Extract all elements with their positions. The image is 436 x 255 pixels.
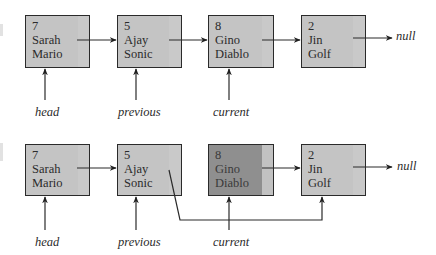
node-data: 5 Ajay Sonic	[118, 16, 170, 67]
node-next-field	[353, 16, 365, 67]
node-id: 7	[32, 148, 78, 162]
node-next-field	[78, 145, 89, 195]
pointer-label-current: current	[213, 235, 249, 250]
node-id: 8	[215, 148, 262, 162]
node-last-name: Diablo	[215, 176, 262, 190]
node-first-name: Jin	[308, 162, 353, 176]
list-node: 7 Sarah Mario	[25, 15, 90, 68]
pointer-label-current: current	[213, 105, 249, 120]
node-last-name: Golf	[308, 47, 353, 61]
node-data: 5 Ajay Sonic	[118, 145, 170, 195]
node-first-name: Sarah	[32, 33, 78, 47]
node-last-name: Sonic	[124, 47, 169, 61]
node-next-field	[169, 16, 181, 67]
node-data: 8 Gino Diablo	[209, 16, 263, 67]
node-first-name: Ajay	[124, 162, 169, 176]
node-first-name: Gino	[215, 162, 262, 176]
node-data: 7 Sarah Mario	[26, 145, 79, 195]
node-last-name: Sonic	[124, 176, 169, 190]
node-next-field	[353, 145, 365, 195]
null-label: null	[397, 159, 416, 174]
list-node: 5 Ajay Sonic	[117, 144, 182, 196]
node-last-name: Golf	[308, 176, 353, 190]
pointer-label-head: head	[35, 105, 59, 120]
node-id: 7	[32, 19, 78, 33]
edge-mark	[0, 24, 3, 36]
node-next-field	[262, 16, 273, 67]
node-data: 8 Gino Diablo	[209, 145, 263, 195]
edge-mark	[0, 143, 3, 161]
node-id: 2	[308, 148, 353, 162]
list-node: 8 Gino Diablo	[208, 15, 274, 68]
node-next-field	[262, 145, 273, 195]
node-first-name: Gino	[215, 33, 262, 47]
node-id: 5	[124, 148, 169, 162]
node-last-name: Mario	[32, 47, 78, 61]
node-id: 8	[215, 19, 262, 33]
node-first-name: Jin	[308, 33, 353, 47]
node-next-field	[169, 145, 181, 195]
node-next-field	[78, 16, 89, 67]
node-last-name: Mario	[32, 176, 78, 190]
node-data: 2 Jin Golf	[302, 16, 354, 67]
node-data: 7 Sarah Mario	[26, 16, 79, 67]
null-label: null	[396, 29, 415, 44]
pointer-label-head: head	[35, 235, 59, 250]
list-node: 2 Jin Golf	[301, 144, 366, 196]
node-data: 2 Jin Golf	[302, 145, 354, 195]
pointer-label-previous: previous	[118, 235, 161, 250]
list-node: 5 Ajay Sonic	[117, 15, 182, 68]
list-node: 2 Jin Golf	[301, 15, 366, 68]
removed-list-node: 8 Gino Diablo	[208, 144, 274, 196]
node-first-name: Ajay	[124, 33, 169, 47]
node-first-name: Sarah	[32, 162, 78, 176]
node-id: 5	[124, 19, 169, 33]
node-last-name: Diablo	[215, 47, 262, 61]
node-id: 2	[308, 19, 353, 33]
list-node: 7 Sarah Mario	[25, 144, 90, 196]
pointer-label-previous: previous	[118, 105, 161, 120]
